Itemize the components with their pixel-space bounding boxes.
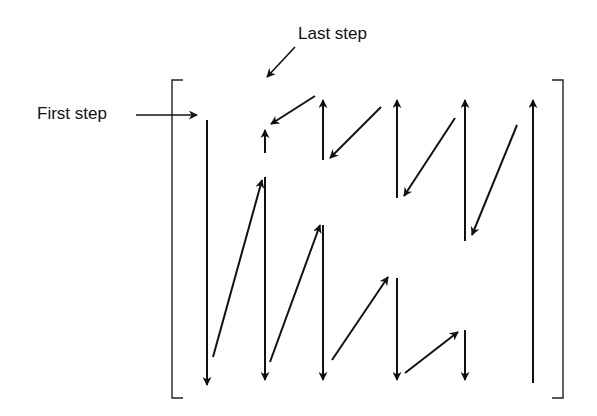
diagonal-arrow xyxy=(330,107,381,158)
last-step-pointer-arrow xyxy=(267,47,295,77)
diagonal-arrow xyxy=(404,118,455,196)
diagonal-arrow xyxy=(271,96,315,124)
last-step-label: Last step xyxy=(298,24,367,44)
scan-arrows xyxy=(136,47,533,385)
scan-path-diagram xyxy=(0,0,597,416)
diagonal-arrow xyxy=(213,180,262,357)
first-step-label: First step xyxy=(37,104,107,124)
diagonal-arrow xyxy=(332,277,388,360)
left-bracket xyxy=(172,80,183,398)
matrix-brackets xyxy=(172,80,563,398)
diagonal-arrow xyxy=(270,225,320,362)
right-bracket xyxy=(552,80,563,398)
diagonal-arrow xyxy=(405,332,458,373)
diagonal-arrow xyxy=(472,125,517,235)
